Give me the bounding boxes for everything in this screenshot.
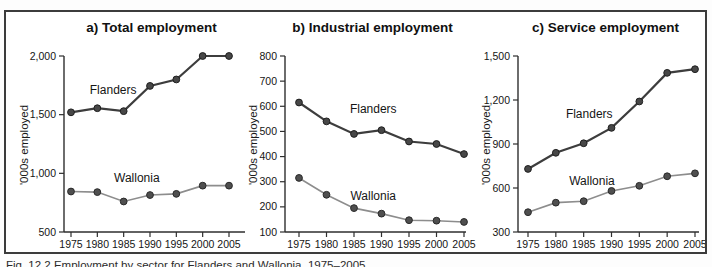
- x-tick-label: 1995: [628, 238, 652, 250]
- figure-page: a) Total employment '000s employed 5001,…: [0, 0, 712, 267]
- flanders-data-point: [552, 149, 559, 156]
- flanders-series-label: Flanders: [350, 102, 397, 116]
- x-tick-label: 1980: [86, 238, 110, 250]
- y-tick-label: 500: [38, 226, 56, 238]
- x-tick-label: 2000: [425, 238, 449, 250]
- wallonia-series-label: Wallonia: [350, 189, 396, 203]
- flanders-series-label: Flanders: [90, 83, 137, 97]
- wallonia-data-point: [226, 182, 233, 189]
- flanders-series-label: Flanders: [566, 107, 613, 121]
- x-tick-label: 1985: [112, 238, 136, 250]
- y-tick-label: 600: [492, 182, 510, 194]
- flanders-data-point: [323, 118, 330, 125]
- wallonia-series-label: Wallonia: [114, 171, 160, 185]
- y-tick-label: 400: [259, 150, 277, 162]
- y-tick-label: 200: [259, 200, 277, 212]
- flanders-data-point: [120, 108, 127, 115]
- x-tick-label: 1975: [287, 238, 311, 250]
- y-tick-label: 2,000: [30, 50, 56, 62]
- chart-canvas-total: 5001,0001,5002,0001975198019851990199520…: [16, 12, 251, 254]
- y-tick-label: 500: [259, 125, 277, 137]
- flanders-data-point: [406, 138, 413, 145]
- x-tick-label: 1995: [397, 238, 421, 250]
- flanders-data-point: [433, 141, 440, 148]
- wallonia-data-point: [351, 205, 358, 212]
- y-tick-label: 100: [259, 226, 277, 238]
- flanders-data-point: [580, 140, 587, 147]
- wallonia-data-point: [68, 188, 75, 195]
- flanders-data-point: [351, 131, 358, 138]
- x-tick-label: 1980: [544, 238, 568, 250]
- wallonia-data-point: [580, 198, 587, 205]
- flanders-data-point: [378, 127, 385, 134]
- x-tick-label: 1975: [516, 238, 540, 250]
- wallonia-data-point: [664, 173, 671, 180]
- chart-panel-industrial-employment: b) Industrial employment '000s employed …: [237, 12, 472, 252]
- wallonia-data-point: [636, 182, 643, 189]
- x-tick-label: 1980: [315, 238, 339, 250]
- wallonia-data-point: [94, 189, 101, 196]
- y-tick-label: 1,000: [30, 167, 56, 179]
- flanders-data-point: [199, 53, 206, 60]
- y-tick-label: 800: [259, 50, 277, 62]
- flanders-data-point: [173, 76, 180, 83]
- y-tick-label: 1,200: [484, 94, 510, 106]
- x-tick-label: 1990: [600, 238, 624, 250]
- figure-frame: a) Total employment '000s employed 5001,…: [4, 10, 707, 254]
- y-tick-label: 1,500: [484, 50, 510, 62]
- flanders-data-point: [94, 105, 101, 112]
- y-tick-label: 300: [492, 226, 510, 238]
- wallonia-data-point: [406, 217, 413, 224]
- x-tick-label: 1985: [342, 238, 366, 250]
- y-tick-label: 600: [259, 100, 277, 112]
- chart-canvas-service: 3006009001,2001,500197519801985199019952…: [470, 12, 705, 254]
- y-tick-label: 700: [259, 75, 277, 87]
- wallonia-data-point: [461, 219, 468, 226]
- wallonia-series-label: Wallonia: [569, 174, 615, 188]
- wallonia-data-point: [608, 188, 615, 195]
- wallonia-data-point: [120, 198, 127, 205]
- wallonia-data-point: [525, 209, 532, 216]
- y-tick-label: 300: [259, 175, 277, 187]
- flanders-data-point: [664, 69, 671, 76]
- y-tick-label: 900: [492, 138, 510, 150]
- wallonia-data-point: [199, 182, 206, 189]
- chart-panel-service-employment: c) Service employment '000s employed 300…: [470, 12, 705, 252]
- chart-panel-total-employment: a) Total employment '000s employed 5001,…: [16, 12, 251, 252]
- x-tick-label: 1990: [138, 238, 162, 250]
- wallonia-data-point: [552, 199, 559, 206]
- flanders-data-point: [608, 124, 615, 131]
- x-tick-label: 2005: [683, 238, 707, 250]
- flanders-data-point: [226, 53, 233, 60]
- flanders-data-point: [461, 151, 468, 158]
- y-tick-label: 1,500: [30, 108, 56, 120]
- flanders-data-point: [296, 99, 303, 106]
- x-tick-label: 1990: [370, 238, 394, 250]
- x-tick-label: 2000: [191, 238, 215, 250]
- chart-canvas-industrial: 1002003004005006007008001975198019851990…: [237, 12, 472, 254]
- figure-caption: Fig. 12.2 Employment by sector for Fland…: [6, 259, 365, 267]
- flanders-data-point: [147, 83, 154, 90]
- wallonia-data-point: [692, 170, 699, 177]
- wallonia-data-point: [323, 191, 330, 198]
- wallonia-data-point: [296, 175, 303, 182]
- wallonia-data-point: [173, 190, 180, 197]
- wallonia-data-point: [433, 217, 440, 224]
- x-tick-label: 1995: [165, 238, 189, 250]
- flanders-data-point: [68, 109, 75, 116]
- wallonia-data-point: [147, 192, 154, 199]
- x-tick-label: 1985: [572, 238, 596, 250]
- flanders-data-point: [636, 98, 643, 105]
- flanders-data-point: [692, 66, 699, 73]
- wallonia-data-point: [378, 210, 385, 217]
- x-tick-label: 1975: [59, 238, 83, 250]
- x-tick-label: 2000: [655, 238, 679, 250]
- flanders-data-point: [525, 166, 532, 173]
